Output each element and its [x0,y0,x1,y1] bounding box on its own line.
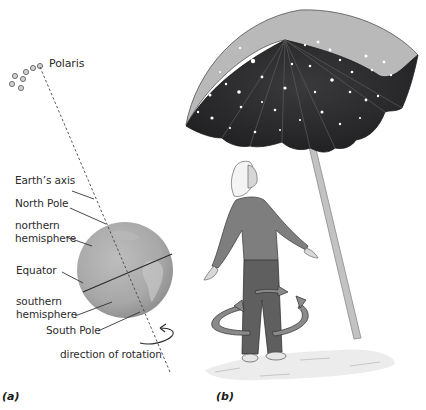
southern-hemisphere-label-line2: hemisphere [16,308,77,320]
northern-hemisphere-label-line2: hemisphere [15,232,76,244]
pants [242,260,282,354]
sweater [212,197,308,268]
panel-a-label: (a) [2,390,19,403]
equator-label: Equator [16,264,57,276]
north-pole-label: North Pole [15,197,68,209]
earth-globe [77,222,173,318]
polaris-label: Polaris [49,58,84,70]
northern-hemisphere-label-line1: northern [15,219,60,231]
little-dipper-stars [9,63,42,90]
direction-of-rotation-label: direction of rotation [60,348,162,360]
figure: Polaris Earth’s axis North Pole northern… [0,0,426,410]
panel-b-label: (b) [216,390,234,403]
earths-axis-label: Earth’s axis [15,174,75,186]
ground [205,350,395,381]
southern-hemisphere-label-line1: southern [16,295,62,307]
south-pole-label: South Pole [46,324,101,336]
umbrella-canopy [186,10,418,152]
